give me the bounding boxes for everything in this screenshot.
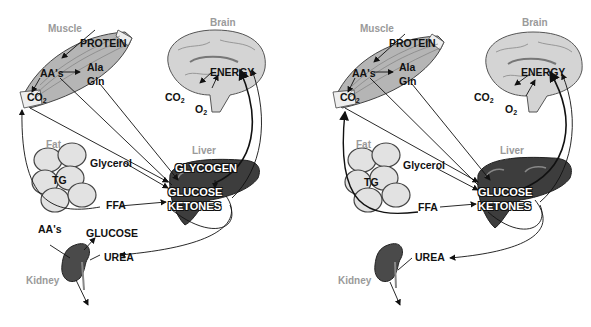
label-protein: PROTEIN bbox=[389, 38, 436, 49]
label-ala: Ala bbox=[399, 62, 415, 73]
label-urea: UREA bbox=[104, 252, 134, 263]
label-aas-muscle: AA's bbox=[352, 68, 376, 79]
label-energy: ENERGY bbox=[521, 67, 565, 78]
label-ffa: FFA bbox=[106, 200, 126, 211]
label-aas-kidney: AA's bbox=[38, 224, 62, 235]
organ-label-kidney: Kidney bbox=[338, 276, 371, 286]
label-glucose-kidney: GLUCOSE bbox=[86, 228, 138, 239]
organ-label-brain: Brain bbox=[210, 18, 236, 28]
organ-label-liver: Liver bbox=[192, 146, 216, 156]
label-ala: Ala bbox=[87, 62, 103, 73]
label-co2-muscle: CO2 bbox=[340, 92, 360, 104]
label-o2-brain: O2 bbox=[195, 104, 207, 116]
organ-label-kidney: Kidney bbox=[26, 276, 59, 286]
label-urea: UREA bbox=[415, 252, 445, 263]
label-aas-muscle: AA's bbox=[40, 68, 64, 79]
label-o2-brain: O2 bbox=[505, 104, 517, 116]
organ-label-fat: Fat bbox=[46, 140, 61, 150]
label-co2-brain: CO2 bbox=[165, 92, 185, 104]
label-ffa: FFA bbox=[418, 202, 438, 213]
organ-label-fat: Fat bbox=[356, 140, 371, 150]
organ-label-muscle: Muscle bbox=[48, 24, 82, 34]
label-energy: ENERGY bbox=[210, 67, 254, 78]
label-glycogen: GLYCOGEN bbox=[175, 163, 237, 174]
organ-label-muscle: Muscle bbox=[360, 24, 394, 34]
label-glucose-liver: GLUCOSE bbox=[168, 187, 222, 198]
organ-label-brain: Brain bbox=[522, 18, 548, 28]
kidney-icon bbox=[375, 244, 403, 288]
label-glycerol: Glycerol bbox=[90, 158, 132, 169]
label-gln: Gln bbox=[399, 76, 417, 87]
label-protein: PROTEIN bbox=[80, 38, 127, 49]
label-ketones: KETONES bbox=[478, 201, 531, 212]
label-ketones: KETONES bbox=[168, 201, 221, 212]
organ-label-liver: Liver bbox=[500, 146, 524, 156]
label-glucose-liver: GLUCOSE bbox=[478, 187, 532, 198]
kidney-icon bbox=[62, 244, 90, 290]
label-co2-muscle: CO2 bbox=[27, 92, 47, 104]
label-gln: Gln bbox=[87, 76, 105, 87]
label-glycerol: Glycerol bbox=[403, 160, 445, 171]
panel-left: Muscle Brain Fat Liver Kidney PROTEIN AA… bbox=[0, 0, 295, 327]
panel-right: Muscle Brain Fat Liver Kidney PROTEIN AA… bbox=[300, 0, 591, 327]
label-tg: TG bbox=[364, 177, 379, 188]
label-co2-brain: CO2 bbox=[474, 92, 494, 104]
label-tg: TG bbox=[52, 175, 67, 186]
